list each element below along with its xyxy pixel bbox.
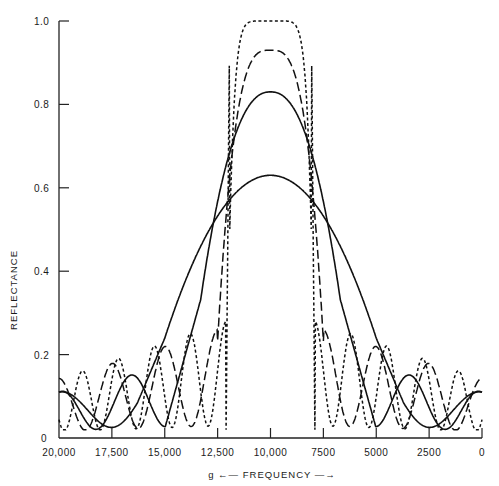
y-tick-label: 0.2 bbox=[34, 350, 49, 361]
reflectance-chart: 00.20.40.60.81.020,00017,50015,00012,500… bbox=[0, 0, 499, 486]
x-tick-label: 15,000 bbox=[148, 447, 182, 458]
x-tick-label: 7500 bbox=[311, 447, 335, 458]
x-tick-label: 20,000 bbox=[42, 447, 76, 458]
x-tick-label: 12,500 bbox=[201, 447, 235, 458]
curve-solid-1 bbox=[59, 92, 482, 430]
axes bbox=[59, 21, 482, 438]
curve-solid-0 bbox=[59, 175, 482, 427]
y-tick-label: 0.4 bbox=[34, 266, 49, 277]
curve-dashed-2 bbox=[59, 50, 482, 430]
x-tick-label: 10,000 bbox=[254, 447, 288, 458]
y-axis-title: REFLECTANCE bbox=[8, 250, 19, 330]
x-tick-label: 17,500 bbox=[95, 447, 129, 458]
x-tick-label: 2500 bbox=[417, 447, 441, 458]
curve-dotted-3 bbox=[59, 21, 482, 430]
y-tick-label: 1.0 bbox=[34, 16, 49, 27]
x-tick-label: 0 bbox=[479, 447, 485, 458]
x-tick-label: 5000 bbox=[364, 447, 388, 458]
curves bbox=[59, 21, 482, 430]
y-tick-label: 0 bbox=[41, 433, 47, 444]
x-axis-title: g ←— FREQUENCY —→ bbox=[208, 469, 336, 480]
y-tick-label: 0.6 bbox=[34, 183, 49, 194]
y-tick-label: 0.8 bbox=[34, 99, 49, 110]
